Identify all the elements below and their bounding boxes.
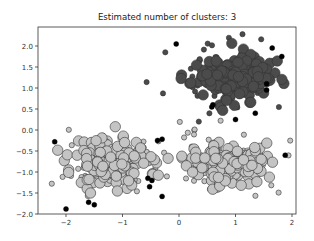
core-point <box>177 151 187 161</box>
border-point <box>49 181 54 186</box>
noise-point <box>160 137 165 142</box>
core-point <box>129 151 139 161</box>
core-point <box>139 158 149 168</box>
y-tick-label: 0.0 <box>22 127 33 135</box>
cluster-0 <box>49 119 182 198</box>
core-point <box>250 142 260 152</box>
core-point <box>221 95 231 105</box>
noise-point <box>253 111 258 116</box>
border-point <box>259 37 264 42</box>
border-point <box>163 50 168 55</box>
core-point <box>267 157 277 167</box>
y-tick-label: 0.5 <box>22 106 33 114</box>
noise-point <box>160 194 165 199</box>
noise-point <box>155 138 160 143</box>
core-point <box>252 177 262 187</box>
border-point <box>134 189 139 194</box>
border-point <box>241 132 246 137</box>
noise-point <box>270 46 275 51</box>
noise-point <box>210 102 215 107</box>
scatter-chart: Estimated number of clusters: 3 −2−1012 … <box>0 0 314 241</box>
noise-point <box>233 117 238 122</box>
core-point <box>238 155 248 165</box>
core-point <box>253 72 263 82</box>
core-point <box>163 153 173 163</box>
x-tick-label: −1 <box>117 219 127 227</box>
core-point <box>227 38 237 48</box>
noise-point <box>64 207 69 212</box>
core-point <box>262 138 272 148</box>
core-point <box>211 56 221 66</box>
core-point <box>211 153 221 163</box>
core-point <box>202 69 212 79</box>
border-point <box>144 80 149 85</box>
noise-point <box>283 153 288 158</box>
border-point <box>182 135 187 140</box>
noise-point <box>279 54 284 59</box>
core-point <box>98 161 108 171</box>
y-axis: 2.01.51.00.50.0−0.5−1.0−1.5−2.0 <box>16 43 38 219</box>
core-point <box>236 180 246 190</box>
border-point <box>164 174 169 179</box>
core-point <box>200 153 210 163</box>
chart-title: Estimated number of clusters: 3 <box>98 12 236 22</box>
x-tick-label: 0 <box>177 219 181 227</box>
border-point <box>240 32 245 37</box>
core-point <box>62 150 72 160</box>
core-point <box>233 57 243 67</box>
core-point <box>246 97 256 107</box>
core-point <box>82 161 92 171</box>
border-point <box>196 119 201 124</box>
noise-point <box>149 178 154 183</box>
noise-point <box>264 81 269 86</box>
border-point <box>288 138 293 143</box>
core-point <box>111 171 121 181</box>
core-point <box>277 74 287 84</box>
y-tick-label: −1.5 <box>16 190 33 198</box>
core-point <box>212 70 222 80</box>
data-points <box>49 32 293 212</box>
border-point <box>160 91 165 96</box>
core-point <box>123 176 133 186</box>
core-point <box>187 167 197 177</box>
x-axis: −2−1012 <box>61 214 294 227</box>
border-point <box>253 193 258 198</box>
y-tick-label: −1.0 <box>16 169 33 177</box>
noise-point <box>92 202 97 207</box>
y-tick-label: −2.0 <box>16 211 33 219</box>
noise-point <box>174 41 179 46</box>
y-tick-label: −0.5 <box>16 148 33 156</box>
border-point <box>76 166 81 171</box>
cluster-2 <box>162 118 293 198</box>
core-point <box>53 145 63 155</box>
border-point <box>201 47 206 52</box>
core-point <box>110 122 120 132</box>
y-tick-label: 1.0 <box>22 85 33 93</box>
x-tick-label: 1 <box>233 219 237 227</box>
core-point <box>153 170 163 180</box>
border-point <box>185 130 190 135</box>
border-point <box>269 183 274 188</box>
border-point <box>207 111 212 116</box>
noise-point <box>86 200 91 205</box>
border-point <box>69 143 74 148</box>
core-point <box>84 174 94 184</box>
core-point <box>221 84 231 94</box>
border-point <box>191 132 196 137</box>
core-point <box>112 186 122 196</box>
core-point <box>117 159 127 169</box>
core-point <box>198 90 208 100</box>
border-point <box>66 127 71 132</box>
noise-point <box>52 139 57 144</box>
border-point <box>276 104 281 109</box>
x-tick-label: 2 <box>290 219 294 227</box>
noise-point <box>264 88 269 93</box>
core-point <box>85 188 95 198</box>
core-point <box>233 71 243 81</box>
border-point <box>193 89 198 94</box>
border-point <box>209 43 214 48</box>
border-point <box>276 190 281 195</box>
core-point <box>91 136 101 146</box>
core-point <box>106 152 116 162</box>
core-point <box>119 137 129 147</box>
